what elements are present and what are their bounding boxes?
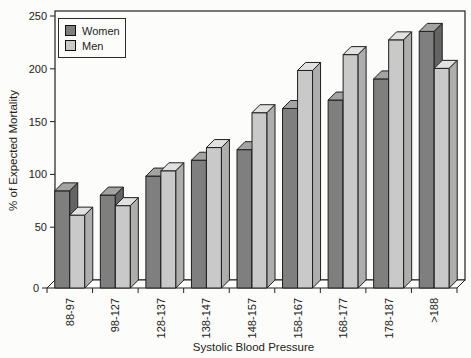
y-axis-title: % of Expected Mortality [7,26,22,276]
bar-side-men-98-127 [130,198,138,288]
bar-side-men-178-187 [404,32,412,288]
bar-men-158-167 [298,70,313,288]
bar-women-88-97 [55,191,70,288]
chart-figure: 05010015020025088-9798-127128-137138-147… [0,0,471,358]
bar-women-168-177 [328,100,343,288]
y-tick-label-0: 0 [33,282,39,294]
bar-men-168-177 [343,55,358,288]
bar-women-128-137 [146,176,161,288]
x-category-label-148-157: 148-157 [246,298,258,338]
bar-women-138-147 [191,160,206,288]
bar-side-men-168-177 [358,47,366,288]
bar-men-178-187 [389,40,404,288]
bar-side-men-88-97 [85,207,93,288]
bar-side-men-138-147 [221,140,229,288]
bar-men-148-157 [252,113,267,288]
y-tick-label-50: 50 [35,221,47,233]
x-category-label-168-177: 168-177 [337,298,349,338]
x-category-label-88-97: 88-97 [64,298,76,326]
legend-label-men: Men [82,40,103,52]
legend-swatch-women [65,25,76,36]
bar-men-128-137 [161,171,176,288]
legend: Women Men [58,18,126,58]
legend-entry-men: Men [65,38,125,53]
bar-women->188 [419,31,434,288]
bar-women-158-167 [283,108,298,288]
bar-women-148-157 [237,150,252,288]
y-tick-label-150: 150 [29,116,47,128]
y-tick-label-250: 250 [29,10,47,22]
x-axis-title: Systolic Blood Pressure [36,341,471,353]
y-tick-label-100: 100 [29,168,47,180]
y-tick-label-200: 200 [29,63,47,75]
bar-men-98-127 [115,206,130,288]
x-category-label-138-147: 138-147 [200,298,212,338]
bar-men-138-147 [206,148,221,288]
legend-entry-women: Women [65,23,125,38]
x-category-label-178-187: 178-187 [383,298,395,338]
x-category-label-158-167: 158-167 [292,298,304,338]
x-category-label->188: >188 [428,298,440,323]
bar-side-men-158-167 [313,62,321,288]
bar-men->188 [434,68,449,288]
bar-side-men-128-137 [176,163,184,288]
legend-swatch-men [65,40,76,51]
bar-women-98-127 [100,195,115,288]
bar-women-178-187 [374,79,389,288]
bar-side-men->188 [449,60,457,288]
bar-men-88-97 [70,215,85,288]
bar-side-men-148-157 [267,105,275,288]
legend-label-women: Women [82,25,120,37]
x-category-label-98-127: 98-127 [109,298,121,332]
x-category-label-128-137: 128-137 [155,298,167,338]
